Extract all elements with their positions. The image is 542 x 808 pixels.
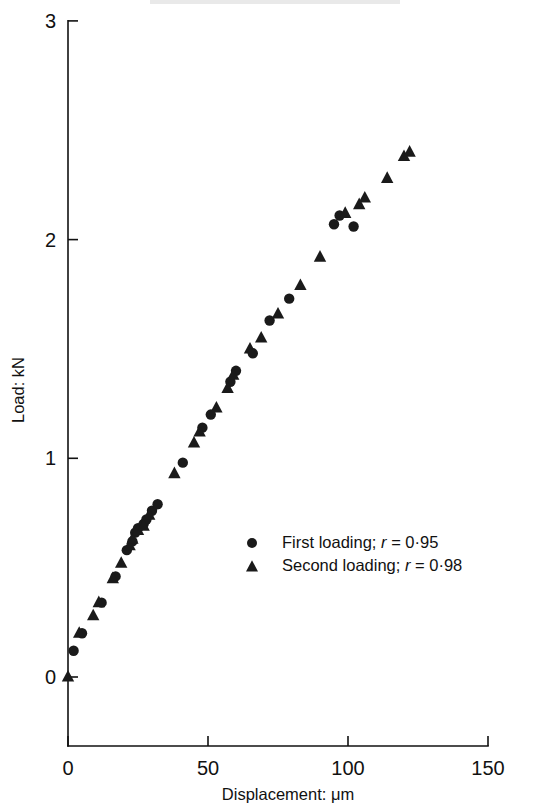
series-first-loading	[68, 210, 358, 656]
data-point-circle	[152, 499, 162, 509]
legend-label: First loading; r = 0·95	[282, 533, 438, 551]
data-point-circle	[284, 293, 294, 303]
series-second-loading	[62, 145, 416, 682]
data-point-triangle	[381, 171, 393, 183]
legend-triangle-icon	[246, 560, 258, 571]
legend-label-value: = 0·98	[410, 556, 462, 574]
data-point-triangle	[188, 436, 200, 448]
scatter-plot: 0123050100150 Displacement: μmLoad: kN F…	[0, 0, 542, 808]
data-point-triangle	[314, 250, 326, 262]
legend-group: First loading; r = 0·95Second loading; r…	[246, 533, 462, 574]
x-tick-label: 50	[197, 757, 219, 779]
data-points-group	[62, 145, 416, 682]
x-tick-label: 100	[331, 757, 364, 779]
data-point-circle	[348, 221, 358, 231]
axis-titles-group: Displacement: μmLoad: kN	[9, 357, 354, 803]
x-axis-title: Displacement: μm	[222, 785, 354, 803]
legend-label-value: = 0·95	[387, 533, 439, 551]
x-tick-label: 150	[471, 757, 504, 779]
legend-circle-icon	[247, 538, 257, 548]
data-point-triangle	[168, 467, 180, 479]
data-point-circle	[329, 219, 339, 229]
data-point-triangle	[272, 307, 284, 319]
x-tick-label: 0	[62, 757, 73, 779]
data-point-triangle	[62, 670, 74, 682]
data-point-triangle	[255, 331, 267, 343]
data-point-triangle	[115, 556, 127, 568]
tick-labels-group: 0123050100150	[45, 10, 505, 779]
data-point-circle	[68, 646, 78, 656]
data-point-triangle	[210, 401, 222, 413]
y-axis-title: Load: kN	[9, 357, 27, 423]
y-tick-label: 3	[45, 10, 56, 32]
data-point-circle	[178, 457, 188, 467]
data-point-triangle	[359, 191, 371, 203]
y-tick-label: 2	[45, 229, 56, 251]
y-tick-label: 0	[45, 666, 56, 688]
data-point-triangle	[87, 609, 99, 621]
figure-container: 0123050100150 Displacement: μmLoad: kN F…	[0, 0, 542, 808]
axes-group	[68, 21, 488, 746]
legend-label-text: Second loading;	[282, 556, 405, 574]
legend-label-text: First loading;	[282, 533, 381, 551]
data-point-triangle	[294, 278, 306, 290]
y-tick-label: 1	[45, 447, 56, 469]
data-point-triangle	[244, 342, 256, 354]
legend-label: Second loading; r = 0·98	[282, 556, 462, 574]
data-point-triangle	[403, 145, 415, 157]
